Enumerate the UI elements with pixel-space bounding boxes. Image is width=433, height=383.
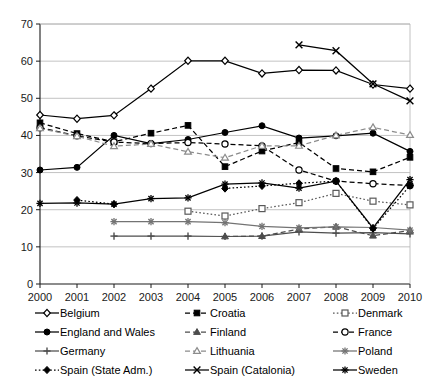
data-point — [259, 123, 265, 129]
legend-item-england-and-wales[interactable]: England and Wales — [34, 322, 184, 341]
legend-item-croatia[interactable]: Croatia — [184, 303, 332, 322]
data-point — [295, 185, 302, 192]
series-markers-belgium — [37, 57, 414, 122]
xtick-label: 2002 — [102, 291, 126, 303]
ytick-label: 70 — [21, 18, 33, 30]
data-point — [73, 199, 80, 206]
data-point — [332, 178, 339, 185]
data-point — [37, 167, 43, 173]
data-point — [147, 195, 154, 202]
legend-item-spain-catalonia-[interactable]: Spain (Catalonia) — [184, 360, 332, 379]
data-point — [333, 166, 339, 172]
xtick-label: 2001 — [65, 291, 89, 303]
data-point — [332, 223, 339, 230]
legend-marker-asterisk-gray-icon — [332, 344, 358, 358]
data-point — [185, 123, 191, 129]
data-point — [222, 129, 228, 135]
legend-marker-x-cross-icon — [184, 363, 210, 377]
data-point — [222, 141, 228, 147]
xtick-label: 2000 — [28, 291, 52, 303]
data-point — [111, 132, 117, 138]
data-point — [341, 347, 348, 354]
legend-marker-circle-open-icon — [332, 325, 358, 339]
xtick-label: 2008 — [324, 291, 348, 303]
legend-item-poland[interactable]: Poland — [332, 341, 430, 360]
legend-item-spain-state-adm-[interactable]: Spain (State Adm.) — [34, 360, 184, 379]
data-point — [110, 218, 117, 225]
xtick-label: 2004 — [176, 291, 200, 303]
data-point — [342, 310, 348, 316]
data-point — [44, 329, 50, 335]
legend-item-germany[interactable]: Germany — [34, 341, 184, 360]
xtick-label: 2003 — [139, 291, 163, 303]
legend-label: Croatia — [210, 306, 245, 320]
data-point — [296, 135, 302, 141]
xtick-label: 2007 — [287, 291, 311, 303]
data-point — [37, 111, 44, 118]
data-point — [110, 232, 117, 239]
series-line-belgium — [40, 61, 410, 119]
ytick-label: 40 — [21, 129, 33, 141]
data-point — [341, 366, 348, 373]
legend-marker-circle-filled-icon — [34, 325, 60, 339]
ytick-label: 50 — [21, 92, 33, 104]
legend-marker-square-open-icon — [332, 306, 358, 320]
data-point — [370, 169, 376, 175]
data-point — [258, 179, 265, 186]
ytick-label: 10 — [21, 241, 33, 253]
data-point — [407, 132, 414, 138]
legend-label: Poland — [358, 344, 392, 358]
legend-marker-triangle-filled-icon — [184, 325, 210, 339]
data-point — [370, 198, 376, 204]
data-point — [296, 66, 303, 73]
data-point — [296, 167, 302, 173]
data-point — [221, 180, 228, 187]
data-point — [222, 213, 228, 219]
data-point — [111, 112, 118, 119]
legend-label: England and Wales — [60, 325, 155, 339]
legend-label: Belgium — [60, 306, 100, 320]
legend-item-denmark[interactable]: Denmark — [332, 303, 430, 322]
legend-item-belgium[interactable]: Belgium — [34, 303, 184, 322]
xtick-label: 2010 — [398, 291, 422, 303]
data-point — [222, 154, 229, 160]
ytick-label: 0 — [27, 278, 33, 290]
data-point — [221, 219, 228, 226]
data-point — [185, 148, 192, 154]
data-point — [185, 208, 191, 214]
legend-label: France — [358, 325, 392, 339]
ytick-label: 30 — [21, 167, 33, 179]
data-point — [110, 201, 117, 208]
data-point — [333, 190, 339, 196]
data-point — [259, 70, 266, 77]
data-point — [407, 148, 413, 154]
data-point — [147, 232, 154, 239]
data-point — [184, 194, 191, 201]
data-point — [43, 347, 50, 354]
data-point — [222, 57, 229, 64]
data-point — [259, 206, 265, 212]
data-point — [184, 218, 191, 225]
legend-item-sweden[interactable]: Sweden — [332, 360, 430, 379]
legend-item-lithuania[interactable]: Lithuania — [184, 341, 332, 360]
data-point — [406, 227, 413, 234]
legend-item-france[interactable]: France — [332, 322, 430, 341]
data-point — [184, 232, 191, 239]
data-point — [222, 164, 228, 170]
line-chart: 0102030405060702000200120022003200420052… — [0, 0, 433, 383]
series-line-spain-catalonia- — [299, 45, 410, 101]
data-point — [333, 132, 340, 138]
data-point — [370, 124, 377, 130]
data-point — [185, 139, 191, 145]
legend-item-finland[interactable]: Finland — [184, 322, 332, 341]
legend-label: Lithuania — [210, 344, 255, 358]
data-point — [44, 366, 51, 373]
data-point — [332, 230, 339, 237]
xtick-label: 2009 — [361, 291, 385, 303]
data-point — [342, 328, 348, 334]
legend-label: Finland — [210, 325, 246, 339]
data-point — [369, 224, 376, 231]
data-point — [36, 200, 43, 207]
data-point — [194, 310, 200, 316]
legend-label: Germany — [60, 344, 105, 358]
